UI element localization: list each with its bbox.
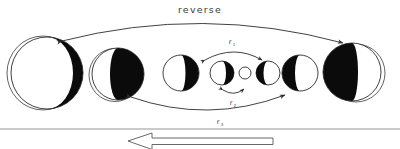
svg-text:2: 2: [234, 103, 237, 108]
phase-disc-3: [163, 55, 199, 91]
phase-disc-1: [7, 36, 83, 110]
phase-disc-5: [239, 67, 251, 79]
diagram-canvas: reverse r 1 r 2 r 3: [0, 0, 400, 149]
phase-disc-8: [323, 43, 385, 102]
phase-5-outline: [239, 67, 251, 79]
inner-mid-arc: [205, 52, 262, 60]
r-top-label: r 1: [229, 38, 236, 47]
phase-2-shadow: [110, 48, 144, 100]
direction-arrow-left: [128, 133, 273, 149]
phase-disc-4: [210, 61, 234, 85]
reverse-label: reverse: [178, 4, 222, 15]
moon-phase-reverse-diagram: reverse r 1 r 2 r 3: [0, 0, 400, 149]
inner-low-arc: [223, 89, 244, 93]
outer-lower-arc: [131, 95, 285, 110]
svg-text:3: 3: [221, 122, 224, 127]
svg-text:r: r: [217, 118, 220, 126]
svg-text:1: 1: [233, 42, 236, 47]
svg-text:r: r: [230, 99, 233, 107]
r-bottom-label: r 3: [217, 118, 224, 127]
phase-disc-6: [256, 61, 280, 85]
svg-text:r: r: [229, 38, 232, 46]
outer-top-arc: [62, 23, 343, 43]
phase-disc-2: [89, 48, 144, 102]
r-inner-label: r 2: [230, 99, 237, 108]
phase-disc-7: [282, 55, 318, 91]
phase-8-shadow: [323, 43, 358, 101]
